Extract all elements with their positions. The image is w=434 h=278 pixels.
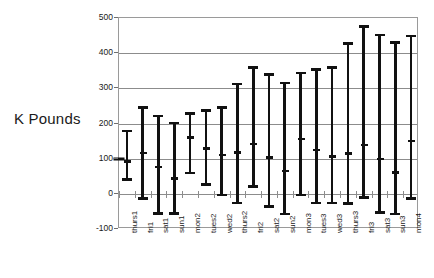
error-bar-stem [220, 107, 223, 194]
error-bar-cap-low [169, 212, 179, 215]
y-axis-tick-label: 400 [99, 47, 113, 57]
y-axis-tick-label: 200 [99, 118, 113, 128]
error-bar-cap-low [359, 196, 369, 199]
error-bar[interactable] [309, 18, 323, 229]
error-bar-stem [283, 83, 286, 214]
error-bar-midpoint-marker [361, 144, 368, 147]
error-bar-cap-low [201, 183, 211, 186]
error-bar-stem [331, 67, 334, 202]
error-bar-cap-low [232, 202, 242, 205]
y-axis-tick-mark [114, 193, 118, 194]
error-bar-cap-high [359, 25, 369, 28]
error-bar-cap-high [169, 122, 179, 125]
error-bar-midpoint-marker [250, 143, 257, 146]
error-bar-cap-high [296, 72, 306, 75]
error-bar-midpoint-marker [219, 154, 226, 157]
y-axis-tick-mark [114, 87, 118, 88]
error-bar[interactable] [373, 18, 387, 229]
error-bar-stem [268, 74, 271, 206]
error-bar-cap-high [153, 115, 163, 118]
error-bar-stem [362, 26, 365, 197]
error-bar-stem [299, 73, 302, 195]
error-bar[interactable] [262, 18, 276, 229]
y-axis-tick-label: 500 [99, 12, 113, 22]
plot-area [118, 17, 418, 228]
error-bar-cap-high [327, 66, 337, 69]
error-bar[interactable] [167, 18, 181, 229]
error-bar-stem [347, 43, 350, 203]
error-bar-cap-high [248, 66, 258, 69]
error-bar-cap-low [217, 194, 227, 197]
error-bar-stem [252, 67, 255, 186]
error-bar[interactable] [388, 18, 402, 229]
error-bar-chart: K Pounds 5004003002001000-100 thurs1fri1… [0, 0, 434, 278]
error-bar-midpoint-marker [329, 155, 336, 158]
error-bar[interactable] [151, 18, 165, 229]
error-bar-cap-low [122, 178, 132, 181]
error-bar-stem [394, 42, 397, 214]
error-bar-cap-high [217, 106, 227, 109]
error-bar-cap-high [343, 42, 353, 45]
error-bar-cap-high [138, 106, 148, 109]
error-bar-stem [378, 35, 381, 213]
y-axis-tick-mark [114, 228, 118, 229]
error-bar-cap-high [280, 82, 290, 85]
error-bar-cap-low [185, 172, 195, 175]
error-bar-stem [189, 113, 192, 173]
error-bar[interactable] [230, 18, 244, 229]
error-bar-midpoint-marker [203, 147, 210, 150]
error-bar[interactable] [120, 18, 134, 229]
error-bar-cap-low [311, 202, 321, 205]
y-axis-tick-mark [114, 52, 118, 53]
error-bar-cap-high [390, 41, 400, 44]
error-bar-midpoint-marker [282, 170, 289, 173]
error-bar-stem [126, 131, 129, 180]
error-bar[interactable] [278, 18, 292, 229]
error-bar-cap-low [296, 194, 306, 197]
error-bar-cap-high [375, 34, 385, 37]
error-bar-cap-high [185, 112, 195, 115]
error-bar-midpoint-marker [392, 171, 399, 174]
error-bar-midpoint-marker [234, 151, 241, 154]
error-bar-cap-low [343, 202, 353, 205]
error-bar-cap-low [406, 197, 416, 200]
error-bar-stem [315, 69, 318, 203]
error-bar-cap-low [138, 197, 148, 200]
error-bar-cap-low [280, 213, 290, 216]
error-bar[interactable] [294, 18, 308, 229]
y-axis-tick-label: 300 [99, 82, 113, 92]
error-bar-midpoint-marker [377, 158, 384, 161]
y-axis-title: K Pounds [14, 110, 81, 127]
error-bar-cap-low [153, 212, 163, 215]
y-axis-tick-label: -100 [96, 223, 113, 233]
error-bar[interactable] [199, 18, 213, 229]
error-bar-cap-high [122, 130, 132, 133]
error-bar-stem [236, 84, 239, 203]
error-bar-midpoint-marker [171, 177, 178, 180]
error-bar-cap-low [327, 202, 337, 205]
error-bar-midpoint-marker [298, 138, 305, 141]
y-axis-tick-label: 0 [108, 188, 113, 198]
y-axis-tick-label: 100 [99, 153, 113, 163]
error-bar[interactable] [246, 18, 260, 229]
error-bar[interactable] [183, 18, 197, 229]
error-bar[interactable] [341, 18, 355, 229]
error-bar-midpoint-marker [140, 152, 147, 155]
error-bar[interactable] [325, 18, 339, 229]
error-bar[interactable] [404, 18, 418, 229]
error-bar-midpoint-marker [408, 140, 415, 143]
error-bar-cap-low [375, 211, 385, 214]
error-bar-cap-high [232, 83, 242, 86]
error-bar-cap-high [406, 35, 416, 38]
error-bar[interactable] [215, 18, 229, 229]
error-bar-cap-low [390, 213, 400, 216]
error-bar[interactable] [136, 18, 150, 229]
error-bar-midpoint-marker [155, 166, 162, 169]
error-bar-stem [157, 116, 160, 213]
error-bar-cap-low [248, 185, 258, 188]
y-axis-tick-mark [114, 123, 118, 124]
error-bar-stem [410, 36, 413, 199]
y-axis-tick-mark [114, 158, 118, 159]
error-bar[interactable] [357, 18, 371, 229]
error-bar-midpoint-marker [187, 136, 194, 139]
